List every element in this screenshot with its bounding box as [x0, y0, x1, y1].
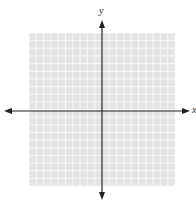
- y-axis-up-arrow-icon: [99, 20, 105, 28]
- y-axis-label: y: [99, 6, 103, 16]
- x-axis-label: x: [192, 105, 196, 115]
- coordinate-grid: [0, 0, 196, 202]
- y-axis-down-arrow-icon: [99, 192, 105, 200]
- x-axis-left-arrow-icon: [4, 108, 12, 114]
- x-axis-right-arrow-icon: [182, 108, 190, 114]
